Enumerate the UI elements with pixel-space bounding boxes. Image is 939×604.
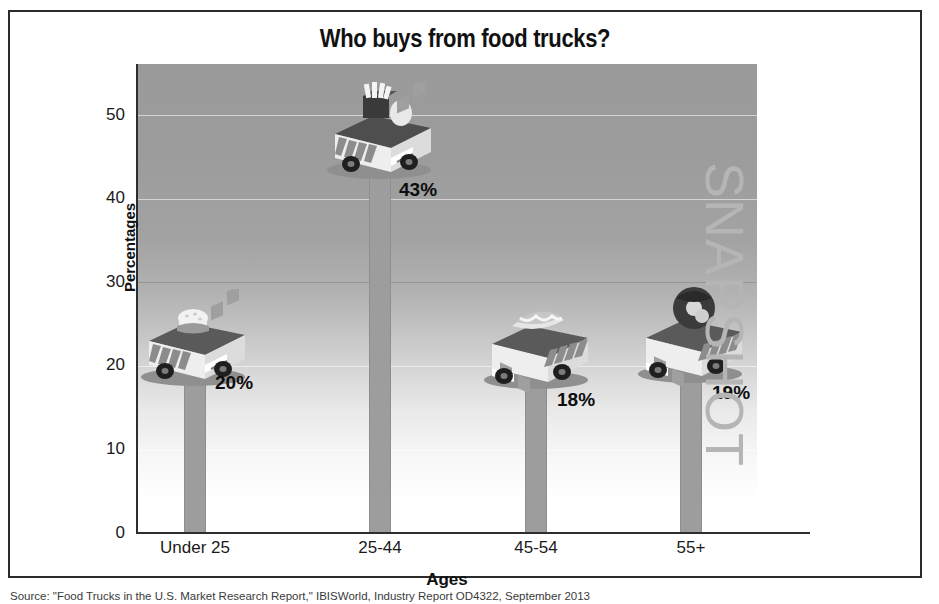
- value-label-25-44: 43%: [399, 179, 437, 201]
- y-tick-50: 50: [65, 105, 125, 125]
- bar-25-44[interactable]: [369, 173, 391, 532]
- x-axis-label: Ages: [137, 570, 757, 590]
- x-axis-line: [136, 532, 810, 534]
- x-tick-55-plus: 55+: [616, 538, 766, 558]
- value-label-45-54: 18%: [557, 389, 595, 411]
- gridline-50: [137, 115, 757, 116]
- x-tick-under-25: Under 25: [120, 538, 270, 558]
- y-tick-30: 30: [65, 272, 125, 292]
- snapshot-watermark: SNAPSHOT: [696, 162, 756, 502]
- chart-title: Who buys from food trucks?: [65, 24, 866, 53]
- source-citation: Source: "Food Trucks in the U.S. Market …: [10, 590, 930, 602]
- plot-area: 0 10 20 30 40 50 Percentages: [137, 64, 757, 532]
- y-tick-0: 0: [65, 523, 125, 543]
- y-tick-10: 10: [65, 439, 125, 459]
- bar-45-54[interactable]: [525, 382, 547, 532]
- gridline-10: [137, 450, 757, 451]
- y-tick-40: 40: [65, 188, 125, 208]
- x-tick-45-54: 45-54: [461, 538, 611, 558]
- bar-under-25[interactable]: [184, 365, 206, 532]
- gridline-40: [137, 199, 757, 200]
- y-tick-20: 20: [65, 355, 125, 375]
- gridline-30: [137, 282, 757, 283]
- food-truck-hotdog-icon: [470, 292, 598, 392]
- x-tick-25-44: 25-44: [305, 538, 455, 558]
- food-truck-fries-icon: [313, 82, 441, 182]
- value-label-under-25: 20%: [215, 372, 253, 394]
- chart-frame: Who buys from food trucks? 0 10 20 30 40…: [8, 10, 922, 578]
